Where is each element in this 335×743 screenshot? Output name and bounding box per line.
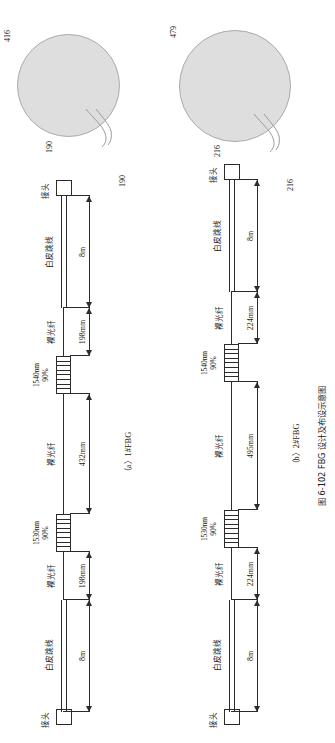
connector-left-label-a: 接头	[42, 712, 51, 728]
dim-jacket-left-value-a: 8m	[79, 651, 88, 661]
bare-fiber-middle-b	[231, 382, 232, 510]
bare-fiber-right-a	[63, 308, 64, 356]
subfigure-b: 479 216 216 接头 白皮跳线 裸光纤 1530nm 90% 裸光纤 1…	[168, 0, 335, 743]
fiber-tail-a	[84, 109, 120, 149]
connector-right-label-a: 接头	[42, 183, 51, 199]
jacket-left-label-a: 白皮跳线	[46, 639, 55, 671]
dim-bare-middle-a	[89, 394, 90, 514]
dim-bare-left-value-b: 224mm	[247, 562, 256, 586]
fbg-1540-grating-b	[224, 344, 239, 382]
figure-canvas: 416 190 190 接头 白皮跳线 裸光纤 1530nm 90% 裸光纤 1…	[0, 0, 335, 743]
fbg-1540-grating-a	[56, 356, 71, 394]
specimen-lead-label-bottom-a: 190	[119, 175, 128, 187]
specimen-lead-label-bottom-b: 216	[287, 179, 296, 191]
jacket-left-label-b: 白皮跳线	[214, 639, 223, 671]
specimen-lead-label-top-b: 216	[214, 145, 223, 157]
bare-fiber-right-label-a: 裸光纤	[48, 320, 57, 344]
dim-bare-right-b	[257, 292, 258, 344]
fbg-1530-reflectivity-b: 90%	[210, 522, 218, 536]
dim-bare-right-value-a: 198mm	[79, 320, 88, 344]
dim-jacket-right-value-a: 8m	[79, 247, 88, 257]
dim-jacket-left-value-b: 8m	[247, 651, 256, 661]
jacket-right-b	[229, 180, 235, 292]
figure-caption: 图 6-102 FBG 设计及布设示意图	[318, 386, 327, 506]
connector-right-label-b: 接头	[210, 167, 219, 183]
fiber-tail-b	[252, 114, 288, 154]
bare-fiber-right-b	[231, 292, 232, 344]
specimen-diameter-label-a: 416	[4, 30, 13, 42]
dim-jacket-right-value-b: 8m	[247, 231, 256, 241]
fbg-1530-grating-a	[56, 514, 71, 552]
bare-fiber-middle-a	[63, 394, 64, 514]
fbg-1540-reflectivity-b: 90%	[210, 356, 218, 370]
dim-jacket-left-b	[257, 600, 258, 712]
jacket-left-a	[61, 600, 67, 712]
bare-fiber-middle-label-a: 裸光纤	[48, 442, 57, 466]
dim-bare-left-a	[89, 552, 90, 600]
bare-fiber-left-b	[231, 548, 232, 600]
bare-fiber-left-a	[63, 552, 64, 600]
dim-bare-middle-value-a: 432mm	[79, 442, 88, 466]
subfigure-a: 416 190 190 接头 白皮跳线 裸光纤 1530nm 90% 裸光纤 1…	[0, 0, 168, 743]
specimen-lead-label-top-a: 190	[46, 141, 55, 153]
dim-bare-middle-value-b: 495mm	[247, 434, 256, 458]
dim-bare-right-value-b: 224mm	[247, 306, 256, 330]
bare-fiber-left-label-b: 裸光纤	[216, 562, 225, 586]
bare-fiber-left-label-a: 裸光纤	[48, 564, 57, 588]
jacket-right-a	[61, 196, 67, 308]
fbg-1540-reflectivity-a: 90%	[42, 368, 50, 382]
dim-jacket-right-a	[89, 196, 90, 308]
connector-right-b	[224, 164, 240, 180]
subfigure-caption-b: （b）2#FBG	[292, 424, 301, 469]
dim-bare-left-b	[257, 548, 258, 600]
jacket-right-label-b: 白皮跳线	[214, 220, 223, 252]
jacket-left-b	[229, 600, 235, 712]
bare-fiber-middle-label-b: 裸光纤	[216, 434, 225, 458]
dim-bare-middle-b	[257, 382, 258, 510]
dim-jacket-left-a	[89, 600, 90, 712]
fbg-1530-grating-b	[224, 510, 239, 548]
bare-fiber-right-label-b: 裸光纤	[216, 306, 225, 330]
jacket-right-label-a: 白皮跳线	[46, 236, 55, 268]
dim-jacket-right-b	[257, 180, 258, 292]
fbg-1530-reflectivity-a: 90%	[42, 526, 50, 540]
connector-right-a	[56, 180, 72, 196]
dim-bare-left-value-a: 198mm	[79, 564, 88, 588]
dim-bare-right-a	[89, 308, 90, 356]
specimen-diameter-label-b: 479	[170, 26, 179, 38]
subfigure-caption-a: （a）1#FBG	[124, 432, 133, 476]
connector-left-label-b: 接头	[210, 712, 219, 728]
